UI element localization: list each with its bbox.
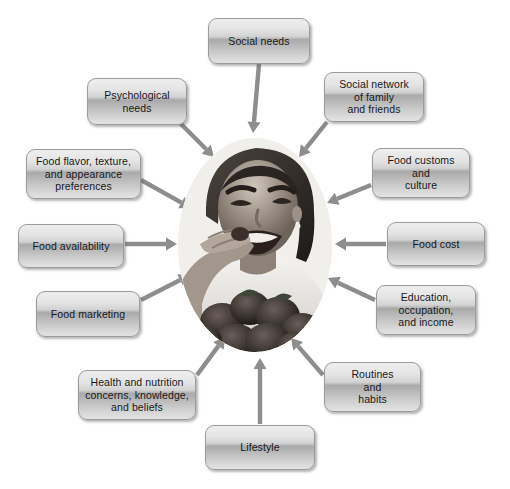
node-health-nutrition[interactable]: Health and nutrition concerns, knowledge… xyxy=(78,370,196,420)
node-label: Health and nutrition concerns, knowledge… xyxy=(85,376,189,414)
node-education[interactable]: Education, occupation, and income xyxy=(376,285,476,335)
arrow-education xyxy=(328,277,375,300)
node-food-cost[interactable]: Food cost xyxy=(387,222,485,266)
center-photo xyxy=(178,138,332,352)
node-social-needs[interactable]: Social needs xyxy=(208,18,310,64)
node-label: Food marketing xyxy=(51,308,125,321)
node-label: Food cost xyxy=(412,238,459,251)
food-choice-influences-diagram: Social needsSocial network of family and… xyxy=(0,0,510,489)
node-label: Social needs xyxy=(228,35,289,48)
arrow-food-customs xyxy=(327,185,371,205)
arrow-psychological-needs xyxy=(178,121,214,157)
node-psychological-needs[interactable]: Psychological needs xyxy=(87,78,187,125)
node-label: Food flavor, texture, and appearance pre… xyxy=(36,155,131,193)
node-label: Food availability xyxy=(33,240,110,253)
node-label: Food customs and culture xyxy=(387,154,454,192)
node-label: Social network of family and friends xyxy=(339,78,409,116)
node-lifestyle[interactable]: Lifestyle xyxy=(205,425,315,470)
node-label: Psychological needs xyxy=(104,89,170,114)
node-food-marketing[interactable]: Food marketing xyxy=(36,291,140,337)
arrow-food-availability xyxy=(125,238,177,251)
node-food-flavor[interactable]: Food flavor, texture, and appearance pre… xyxy=(26,149,141,199)
arrow-food-cost xyxy=(335,238,386,251)
node-label: Routines and habits xyxy=(351,368,393,406)
node-label: Education, occupation, and income xyxy=(398,291,453,329)
arrow-lifestyle xyxy=(254,358,267,424)
node-routines[interactable]: Routines and habits xyxy=(324,362,421,412)
arrow-social-network xyxy=(299,122,327,157)
node-food-availability[interactable]: Food availability xyxy=(18,224,124,268)
node-label: Lifestyle xyxy=(240,441,279,454)
node-social-network[interactable]: Social network of family and friends xyxy=(324,72,424,122)
arrow-health-nutrition xyxy=(197,337,225,375)
arrow-social-needs xyxy=(247,64,260,133)
arrow-routines xyxy=(291,338,323,375)
node-food-customs[interactable]: Food customs and culture xyxy=(372,148,470,198)
